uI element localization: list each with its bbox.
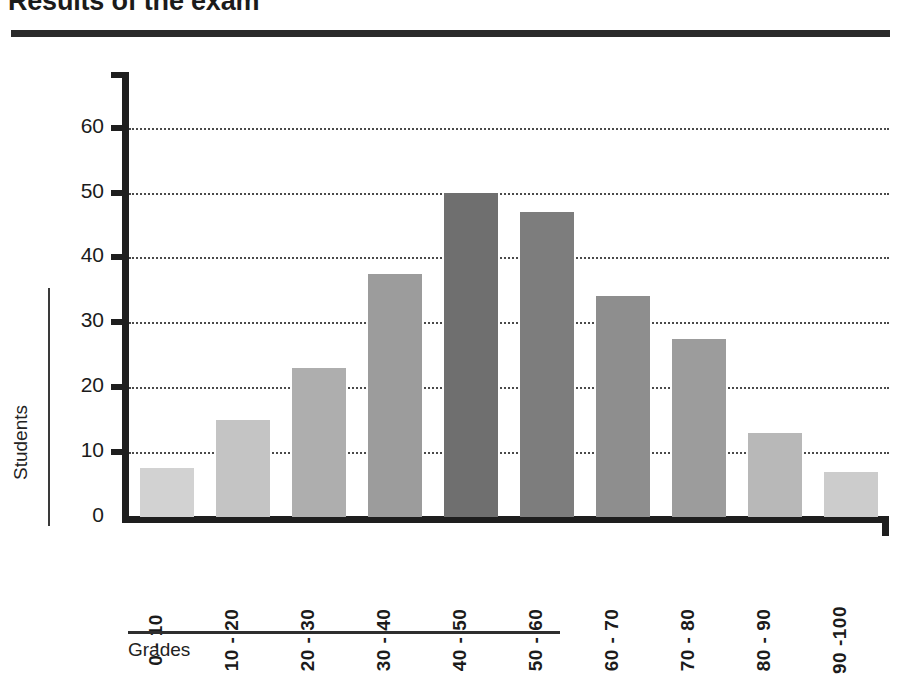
bar — [672, 339, 725, 517]
y-axis-tick-label: 20 — [44, 373, 104, 397]
bar — [748, 433, 801, 517]
y-axis-tick — [111, 125, 129, 131]
x-axis-tick-label-slot: 70 - 80 — [664, 528, 734, 624]
y-axis-tick-label: 40 — [44, 243, 104, 267]
y-axis-title-wrap: Students — [10, 400, 50, 440]
y-axis-tick — [111, 449, 129, 455]
title-divider — [11, 30, 890, 37]
x-axis-tick-label-slot: 0 - 10 — [132, 528, 202, 624]
y-axis-tick — [111, 384, 129, 390]
bar — [596, 296, 649, 517]
x-axis-title-rule — [128, 631, 560, 634]
y-axis-tick — [111, 319, 129, 325]
bar — [140, 468, 193, 517]
x-axis-tick-label: 80 - 90 — [753, 609, 775, 672]
bar — [824, 472, 877, 517]
x-axis-tick-label: 90 -100 — [829, 606, 851, 674]
y-axis-title: Students — [10, 360, 32, 480]
x-axis-tick-label: 20 - 30 — [297, 609, 319, 672]
x-axis-tick-label: 60 - 70 — [601, 609, 623, 672]
bar — [292, 368, 345, 517]
x-axis-tick-label-slot: 10 - 20 — [208, 528, 278, 624]
x-axis-tick-label-slot: 20 - 30 — [284, 528, 354, 624]
x-axis-tick-label: 50 - 60 — [525, 609, 547, 672]
x-axis-tick-label: 10 - 20 — [221, 609, 243, 672]
y-axis-tick-label: 50 — [44, 179, 104, 203]
bar — [368, 274, 421, 517]
y-axis-tick — [111, 190, 129, 196]
x-axis-tick-label-slot: 80 - 90 — [740, 528, 810, 624]
x-axis-tick-label-slot: 40 - 50 — [436, 528, 506, 624]
x-axis-tick-label-slot: 60 - 70 — [588, 528, 658, 624]
bar — [216, 420, 269, 517]
x-axis-tick-label: 40 - 50 — [449, 609, 471, 672]
page-title: Results of the exam — [8, 0, 259, 17]
bar-series — [129, 72, 889, 517]
x-axis-tick-label-slot: 90 -100 — [816, 528, 886, 624]
bar — [520, 212, 573, 517]
x-axis-tick-label: 30 - 40 — [373, 609, 395, 672]
x-axis-line — [122, 516, 888, 523]
x-axis-tick-label-slot: 30 - 40 — [360, 528, 430, 624]
x-axis-tick-label-slot: 50 - 60 — [512, 528, 582, 624]
y-axis-tick — [111, 254, 129, 260]
y-axis-tick-label: 60 — [44, 114, 104, 138]
y-axis-tick-label: 10 — [44, 438, 104, 462]
bar — [444, 193, 497, 518]
y-axis-tick-label: 0 — [44, 503, 104, 527]
x-axis-title: Grades — [128, 639, 190, 661]
x-axis-tick-label: 70 - 80 — [677, 609, 699, 672]
y-axis-tick-label: 30 — [44, 308, 104, 332]
chart-page: Results of the exam Students 01020304050… — [0, 0, 909, 677]
x-axis-tick-labels: 0 - 1010 - 2020 - 3030 - 4040 - 5050 - 6… — [129, 528, 889, 624]
